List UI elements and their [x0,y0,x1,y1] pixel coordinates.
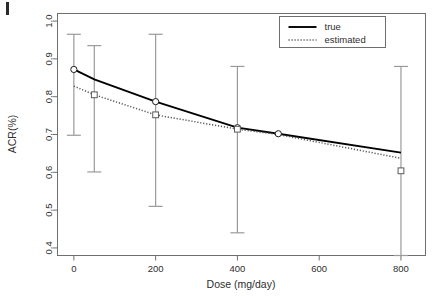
y-tick-label: 0.6 [43,166,54,179]
marker-circle-true [275,131,281,137]
error-bar [149,34,163,206]
y-tick-label: 0.4 [43,241,54,254]
legend-label-true[interactable]: true [325,21,341,32]
chart-legend[interactable]: trueestimated [280,17,386,48]
error-bar [394,66,408,255]
y-tick-label: 0.8 [43,90,54,103]
marker-square-estimated [398,168,404,174]
page-edge-artifact [6,2,9,15]
marker-square-estimated [235,126,241,132]
y-tick-label: 0.9 [43,52,54,65]
error-bar [230,66,244,232]
x-axis-title: Dose (mg/day) [207,278,276,290]
y-tick-label: 0.7 [43,128,54,141]
y-axis: 0.40.50.60.70.80.91.0 [43,14,58,254]
y-tick-label: 0.5 [43,204,54,217]
acr-dose-line-chart: 0.40.50.60.70.80.91.0 0200400600800 Dose… [0,0,442,300]
marker-square-estimated [91,92,97,98]
error-bar [87,46,101,172]
legend-label-estimated[interactable]: estimated [325,34,366,45]
x-tick-label: 600 [311,263,327,274]
y-axis-title: ACR(%) [6,115,18,154]
marker-circle-true [71,66,77,72]
x-tick-label: 200 [148,263,164,274]
chart-figure: 0.40.50.60.70.80.91.0 0200400600800 Dose… [0,0,442,300]
x-tick-label: 0 [71,263,76,274]
plot-frame [58,14,426,256]
x-tick-label: 800 [393,263,409,274]
y-tick-label: 1.0 [43,14,54,27]
x-axis: 0200400600800 [71,256,409,274]
x-tick-label: 400 [229,263,245,274]
marker-circle-true [153,99,159,105]
error-bar [67,34,81,135]
marker-square-estimated [153,112,159,118]
